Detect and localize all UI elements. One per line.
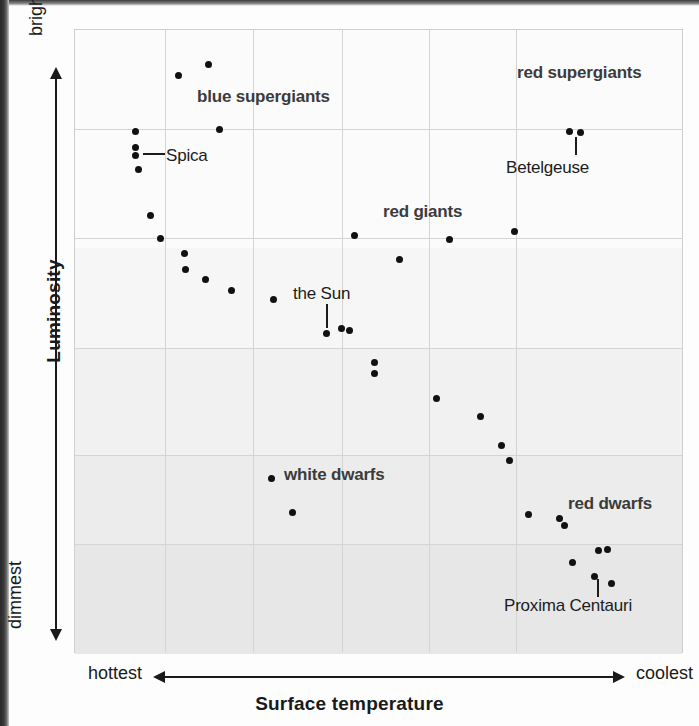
annotation-proxima-centauri: Proxima Centauri: [504, 596, 632, 616]
y-axis-bottom-label: dimmest: [5, 561, 26, 671]
star-point: [202, 276, 209, 283]
horizontal-gridline-4: [75, 544, 682, 545]
y-axis-title: Luminosity: [43, 251, 65, 371]
vertical-gridline-3: [429, 30, 430, 652]
star-point: [228, 287, 235, 294]
spica-leader: [143, 153, 165, 155]
star-point: [604, 546, 611, 553]
star-point: [498, 442, 505, 449]
star-point: [289, 509, 296, 516]
star-point: [433, 395, 440, 402]
horizontal-gridline-0: [75, 129, 682, 130]
star-point: [561, 522, 568, 529]
star-point: [595, 547, 602, 554]
star-point: [577, 129, 584, 136]
star-point: [506, 457, 513, 464]
star-point: [216, 126, 223, 133]
betelgeuse-leader: [575, 137, 577, 155]
vertical-gridline-1: [253, 30, 254, 652]
x-axis-right-label: coolest: [636, 663, 693, 684]
star-point: [346, 327, 353, 334]
annotation-red-supergiants: red supergiants: [517, 63, 642, 83]
star-point: [351, 232, 358, 239]
star-point: [157, 235, 164, 242]
plot-band-1: [75, 248, 682, 348]
annotation-blue-supergiants: blue supergiants: [197, 87, 330, 107]
annotation-white-dwarfs: white dwarfs: [284, 465, 385, 485]
annotation-betelgeuse: Betelgeuse: [506, 158, 589, 178]
annotation-the-sun: the Sun: [293, 284, 350, 304]
vertical-gridline-0: [165, 30, 166, 652]
star-point: [566, 128, 573, 135]
star-point: [132, 128, 139, 135]
star-point: [371, 370, 378, 377]
star-point: [182, 266, 189, 273]
star-point: [446, 236, 453, 243]
star-point: [511, 228, 518, 235]
star-point: [132, 144, 139, 151]
star-point: [396, 256, 403, 263]
annotation-red-dwarfs: red dwarfs: [568, 494, 652, 514]
x-axis-left-label: hottest: [88, 663, 142, 684]
proxima-leader: [597, 579, 599, 597]
star-point: [608, 580, 615, 587]
star-point: [569, 559, 576, 566]
y-axis-top-label: brightest: [26, 0, 47, 36]
plot-band-2: [75, 348, 682, 455]
star-point: [371, 359, 378, 366]
star-point: [556, 515, 563, 522]
horizontal-gridline-2: [75, 348, 682, 349]
horizontal-gridline-3: [75, 455, 682, 456]
page-edge-shadow-top: [0, 0, 699, 6]
star-point: [132, 152, 139, 159]
horizontal-gridline-1: [75, 238, 682, 239]
star-point: [181, 250, 188, 257]
star-point: [525, 511, 532, 518]
star-point: [175, 72, 182, 79]
vertical-gridline-2: [342, 30, 343, 652]
star-point: [135, 166, 142, 173]
scatter-plot-area: blue supergiantsred supergiantsSpicaBete…: [74, 29, 683, 653]
sun-leader: [326, 304, 328, 328]
vertical-gridline-4: [516, 30, 517, 652]
star-point: [268, 475, 275, 482]
annotation-spica: Spica: [166, 146, 208, 166]
x-axis-arrow: [165, 676, 613, 678]
star-point: [477, 413, 484, 420]
star-point: [270, 296, 277, 303]
x-axis-title: Surface temperature: [0, 693, 699, 715]
star-point: [205, 61, 212, 68]
annotation-red-giants: red giants: [383, 202, 462, 222]
star-point: [147, 212, 154, 219]
hr-diagram-figure: brightest dimmest Luminosity blue superg…: [0, 0, 699, 726]
star-point: [323, 330, 330, 337]
star-point: [338, 325, 345, 332]
